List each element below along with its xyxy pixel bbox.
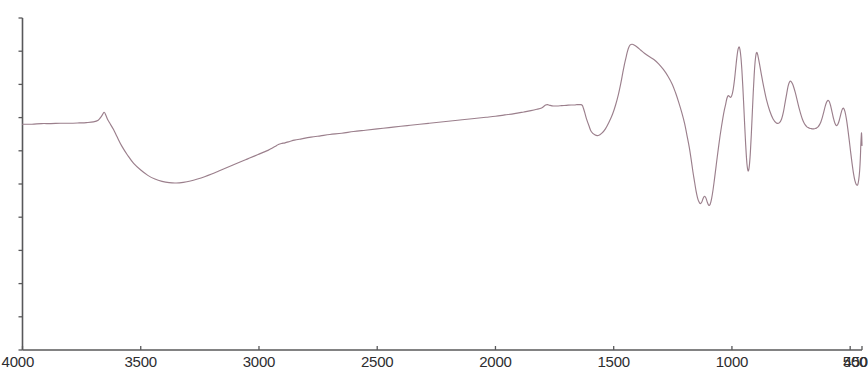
x-axis-tick-label: 4000 <box>2 353 35 370</box>
x-axis-tick-labels: 4000350030002500200015001000500450 <box>2 353 868 370</box>
x-axis-tick-label: 1500 <box>597 353 630 370</box>
x-axis-tick-label: 450 <box>844 353 868 370</box>
ir-spectrum-figure: 4000350030002500200015001000500450 <box>0 0 868 370</box>
spectrum-plot: 4000350030002500200015001000500450 <box>0 0 868 370</box>
x-axis-tick-label: 3000 <box>243 353 276 370</box>
x-axis-tick-label: 2500 <box>361 353 394 370</box>
x-axis-tick-label: 2000 <box>479 353 512 370</box>
x-axis-tick-label: 1000 <box>716 353 749 370</box>
spectrum-trace <box>23 44 863 205</box>
x-axis-tick-label: 3500 <box>124 353 157 370</box>
